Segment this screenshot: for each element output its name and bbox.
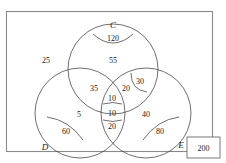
region-value-d-only: 5 [77,110,81,119]
region-value-triple-lower: 10 [108,109,116,118]
region-value-c-only: 55 [109,56,117,65]
region-value-e-only: 40 [142,110,150,119]
region-value-d-and-e: 20 [108,122,116,131]
venn-diagram-svg: C D E 25 120 55 35 20 30 10 10 20 5 40 6… [0,0,226,163]
region-value-c-and-e-mid: 20 [122,84,130,93]
region-value-outside: 25 [42,56,50,65]
total-box-value: 200 [198,144,210,153]
region-value-e-cap: 80 [156,127,164,136]
set-label-e: E [177,140,184,150]
region-value-c-cap: 120 [107,34,119,43]
set-label-c: C [110,20,117,30]
region-value-triple-upper: 10 [108,94,116,103]
venn-diagram-page: C D E 25 120 55 35 20 30 10 10 20 5 40 6… [0,0,226,163]
set-label-d: D [41,142,49,152]
region-value-c-and-e-cap: 30 [136,77,144,86]
region-value-d-cap: 60 [62,127,70,136]
region-value-c-and-d: 35 [90,84,98,93]
